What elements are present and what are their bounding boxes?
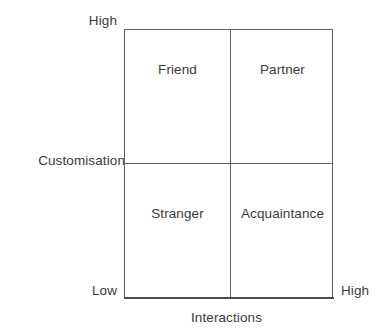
quadrant-friend: Friend bbox=[125, 30, 230, 163]
quadrant-label: Partner bbox=[260, 62, 305, 77]
quadrant-partner: Partner bbox=[231, 30, 334, 163]
y-axis-title: Customisation bbox=[38, 153, 125, 168]
quadrant-diagram: High Customisation Low Friend Partner St… bbox=[0, 0, 391, 334]
quadrant-acquaintance: Acquaintance bbox=[231, 164, 334, 298]
quadrant-label: Acquaintance bbox=[241, 206, 324, 221]
quadrant-label: Stranger bbox=[151, 206, 204, 221]
x-axis-line bbox=[124, 297, 334, 299]
y-axis-low-label: Low bbox=[92, 283, 117, 298]
x-axis-title: Interactions bbox=[0, 310, 391, 325]
quadrant-label: Friend bbox=[158, 62, 197, 77]
matrix-box: Friend Partner Stranger Acquaintance bbox=[124, 29, 333, 298]
x-axis-high-label: High bbox=[341, 283, 369, 298]
quadrant-stranger: Stranger bbox=[125, 164, 230, 298]
y-axis-high-label: High bbox=[89, 13, 117, 28]
